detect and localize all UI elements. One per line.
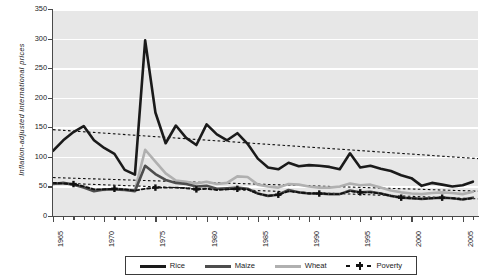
- y-tick: [48, 186, 52, 187]
- poverty-marker-icon: [316, 190, 322, 196]
- x-tick-major: [104, 217, 105, 222]
- x-tick-label: 1980: [210, 231, 219, 247]
- legend-label-rice: Rice: [170, 261, 185, 270]
- x-tick-major: [155, 217, 156, 222]
- legend-item-poverty[interactable]: Poverty: [346, 261, 402, 271]
- data-series-layer: [53, 9, 478, 216]
- x-tick-minor: [452, 217, 453, 220]
- legend-swatch-poverty: [346, 261, 372, 271]
- chart-legend: Rice Maize Wheat Poverty: [125, 256, 417, 275]
- x-tick-major: [53, 217, 54, 222]
- x-tick-minor: [319, 217, 320, 220]
- x-tick-minor: [94, 217, 95, 220]
- x-axis-line: [52, 216, 479, 217]
- legend-item-wheat[interactable]: Wheat: [275, 261, 327, 271]
- poverty-marker-icon: [152, 184, 158, 190]
- x-tick-minor: [186, 217, 187, 220]
- y-tick: [48, 127, 52, 128]
- trendline: [53, 130, 478, 159]
- y-tick-label: 0: [0, 211, 47, 221]
- x-tick-minor: [237, 217, 238, 220]
- x-tick-minor: [473, 217, 474, 220]
- x-tick-major: [360, 217, 361, 222]
- y-tick-label: 350: [0, 4, 47, 14]
- x-tick-minor: [63, 217, 64, 220]
- x-tick-minor: [166, 217, 167, 220]
- x-tick-major: [463, 217, 464, 222]
- x-tick-major: [258, 217, 259, 222]
- x-tick-minor: [422, 217, 423, 220]
- x-tick-minor: [135, 217, 136, 220]
- x-tick-label: 1965: [56, 231, 65, 247]
- y-tick: [48, 39, 52, 40]
- legend-swatch-maize: [205, 261, 231, 271]
- x-tick-minor: [340, 217, 341, 220]
- legend-label-poverty: Poverty: [376, 261, 402, 270]
- legend-swatch-rice: [140, 261, 166, 271]
- y-tick-label: 50: [0, 181, 47, 191]
- x-tick-label: 1975: [158, 231, 167, 247]
- x-tick-minor: [350, 217, 351, 220]
- x-tick-minor: [299, 217, 300, 220]
- x-tick-major: [309, 217, 310, 222]
- legend-item-rice[interactable]: Rice: [140, 261, 185, 271]
- x-tick-minor: [401, 217, 402, 220]
- legend-label-wheat: Wheat: [305, 261, 327, 270]
- x-tick-minor: [176, 217, 177, 220]
- x-tick-label: 2005: [466, 231, 475, 247]
- legend-swatch-wheat: [275, 261, 301, 271]
- x-tick-label: 2000: [414, 231, 423, 247]
- x-tick-minor: [248, 217, 249, 220]
- x-tick-minor: [289, 217, 290, 220]
- x-tick-minor: [391, 217, 392, 220]
- y-tick: [48, 9, 52, 10]
- x-tick-minor: [268, 217, 269, 220]
- x-tick-minor: [442, 217, 443, 220]
- y-tick: [48, 157, 52, 158]
- x-tick-minor: [278, 217, 279, 220]
- x-tick-minor: [432, 217, 433, 220]
- series-line-rice: [53, 40, 473, 186]
- y-tick-label: 150: [0, 122, 47, 132]
- x-tick-minor: [196, 217, 197, 220]
- y-tick-label: 100: [0, 152, 47, 162]
- y-axis-title: Inflation-adjusted international prices: [17, 20, 26, 200]
- y-tick-label: 250: [0, 63, 47, 73]
- x-tick-minor: [330, 217, 331, 220]
- x-tick-minor: [73, 217, 74, 220]
- chart-container: Inflation-adjusted international prices …: [0, 0, 499, 279]
- x-tick-minor: [370, 217, 371, 220]
- y-tick-label: 200: [0, 93, 47, 103]
- y-tick: [48, 68, 52, 69]
- x-tick-minor: [114, 217, 115, 220]
- poverty-marker-icon: [439, 194, 445, 200]
- x-tick-minor: [381, 217, 382, 220]
- y-tick: [48, 98, 52, 99]
- x-tick-label: 1985: [261, 231, 270, 247]
- legend-label-maize: Maize: [235, 261, 255, 270]
- x-tick-minor: [125, 217, 126, 220]
- x-tick-label: 1970: [107, 231, 116, 247]
- x-tick-major: [411, 217, 412, 222]
- x-tick-minor: [84, 217, 85, 220]
- x-tick-minor: [145, 217, 146, 220]
- y-tick: [48, 216, 52, 217]
- x-tick-major: [207, 217, 208, 222]
- poverty-marker-icon: [356, 262, 363, 270]
- x-tick-minor: [227, 217, 228, 220]
- x-tick-label: 1995: [363, 231, 372, 247]
- legend-item-maize[interactable]: Maize: [205, 261, 255, 271]
- y-tick-label: 300: [0, 34, 47, 44]
- x-tick-minor: [217, 217, 218, 220]
- x-tick-label: 1990: [312, 231, 321, 247]
- poverty-marker-icon: [111, 186, 117, 192]
